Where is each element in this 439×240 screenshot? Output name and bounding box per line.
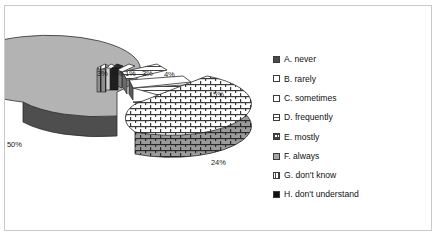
legend-item-g-dont-know[interactable]: G. don't know [273, 166, 428, 185]
legend-label-e: E. mostly [284, 133, 319, 142]
legend-label-b: B. rarely [284, 75, 316, 84]
pie-label-1pct-c: 1% [125, 69, 136, 78]
pie-label-0pct-b: 0% [112, 69, 123, 78]
legend-swatch-icon-g [273, 172, 280, 179]
legend-swatch-icon-d [273, 114, 280, 121]
legend-item-b-rarely[interactable]: B. rarely [273, 69, 428, 88]
legend-swatch-icon-h [273, 191, 280, 198]
legend-label-f: F. always [284, 152, 319, 161]
legend-swatch-icon-f [273, 153, 280, 160]
chart-frame: 3% 0% 1% 3% 4% 15% 24% 50% A. never B. r… [4, 5, 432, 231]
pie-label-50pct-h: 50% [7, 140, 22, 149]
legend-swatch-icon-a [273, 56, 280, 63]
legend-item-a-never[interactable]: A. never [273, 50, 428, 69]
legend-label-g: G. don't know [284, 171, 336, 180]
chart-legend: A. never B. rarely C. sometimes D. frequ… [273, 50, 428, 204]
legend-item-d-frequently[interactable]: D. frequently [273, 108, 428, 127]
pie-label-3pct-a: 3% [97, 69, 108, 78]
legend-item-e-mostly[interactable]: E. mostly [273, 127, 428, 146]
pie-label-3pct-d: 3% [142, 69, 153, 78]
pie-label-24pct-g: 24% [211, 158, 226, 167]
legend-item-h-dont-understand[interactable]: H. don't understand [273, 185, 428, 204]
pie-chart-plot-area: 3% 0% 1% 3% 4% 15% 24% 50% [5, 6, 270, 230]
legend-item-f-always[interactable]: F. always [273, 146, 428, 165]
pie-chart-graphic [5, 6, 270, 230]
legend-label-c: C. sometimes [284, 94, 337, 103]
legend-label-a: A. never [284, 55, 316, 64]
legend-swatch-icon-e [273, 133, 280, 140]
pie-label-4pct-e: 4% [164, 70, 175, 79]
legend-label-d: D. frequently [284, 113, 333, 122]
pie-label-15pct-f: 15% [209, 90, 224, 99]
legend-label-h: H. don't understand [284, 190, 359, 199]
legend-swatch-icon-b [273, 75, 280, 82]
legend-item-c-sometimes[interactable]: C. sometimes [273, 89, 428, 108]
legend-swatch-icon-c [273, 95, 280, 102]
